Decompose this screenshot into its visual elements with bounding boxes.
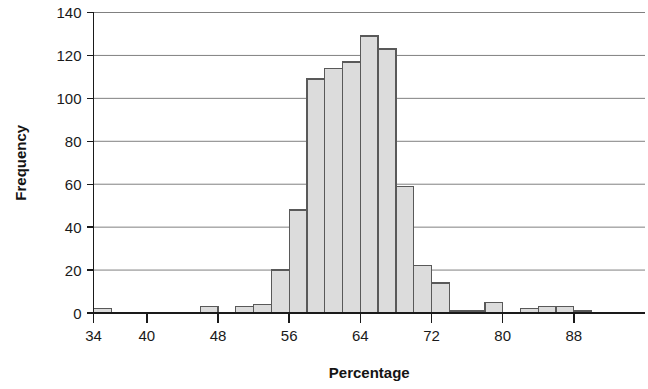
histogram-bar	[343, 62, 361, 313]
y-axis-title: Frequency	[12, 124, 29, 201]
y-tick-labels-group: 020406080100120140	[56, 4, 81, 322]
histogram-bar	[325, 68, 343, 313]
histogram-bar	[414, 266, 432, 313]
x-tick-label: 64	[352, 327, 369, 344]
y-tick-label: 120	[56, 47, 81, 64]
x-axis-title: Percentage	[329, 364, 410, 381]
histogram-bar	[271, 270, 289, 313]
x-tick-label: 56	[281, 327, 298, 344]
histogram-bar	[396, 186, 414, 313]
x-tick-label: 72	[423, 327, 440, 344]
histogram-bar	[378, 49, 396, 313]
y-ticks-group	[87, 13, 94, 314]
histogram-chart: 3440485664728088 020406080100120140 Perc…	[0, 0, 648, 389]
y-tick-label: 140	[56, 4, 81, 21]
y-tick-label: 40	[65, 219, 82, 236]
y-tick-label: 0	[73, 305, 81, 322]
histogram-bar	[307, 79, 325, 313]
x-tick-label: 48	[210, 327, 227, 344]
x-tick-label: 34	[85, 327, 102, 344]
histogram-bar	[236, 307, 254, 313]
histogram-bar	[432, 283, 450, 313]
histogram-bar	[485, 302, 503, 313]
histogram-bar	[289, 210, 307, 313]
histogram-bar	[200, 307, 218, 313]
x-tick-label: 40	[139, 327, 156, 344]
x-tick-label: 88	[565, 327, 582, 344]
x-tick-labels-group: 3440485664728088	[85, 327, 582, 344]
y-tick-label: 80	[65, 133, 82, 150]
y-tick-label: 20	[65, 262, 82, 279]
y-tick-label: 100	[56, 90, 81, 107]
bars-group	[94, 36, 592, 313]
x-tick-label: 80	[494, 327, 511, 344]
histogram-bar	[360, 36, 378, 313]
histogram-bar	[556, 307, 574, 313]
chart-canvas: 3440485664728088 020406080100120140 Perc…	[0, 0, 648, 389]
y-tick-label: 60	[65, 176, 82, 193]
x-ticks-group	[94, 313, 574, 323]
histogram-bar	[254, 304, 272, 313]
histogram-bar	[538, 307, 556, 313]
